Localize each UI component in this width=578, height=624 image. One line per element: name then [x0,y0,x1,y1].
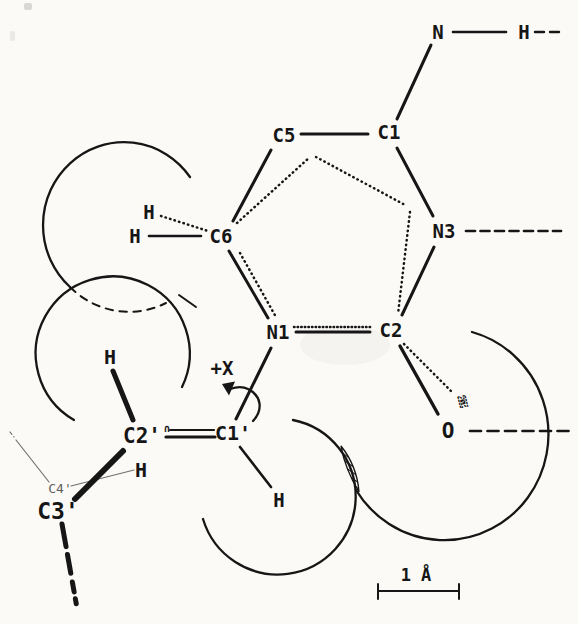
paper-background [0,0,578,624]
atom-label-h-amino: H [518,21,529,43]
scale-bar-label: 1 Å [401,563,432,585]
atom-label-c1prime: C1' [215,421,251,445]
atom-label-c5: C5 [273,124,296,146]
atom-label-c6: C6 [210,225,233,247]
atom-label-h6-lower: H [129,225,140,247]
figure-canvas: N N H C5 C1 H H C6 N3 N1 C2 O H [0,0,578,624]
atom-label-c4prime: C4' [48,481,71,496]
atom-label-o2: O [442,419,455,443]
atom-label-c1: C1 [378,121,401,143]
atom-label-h6-upper: H [143,201,154,223]
atom-label-h1prime: H [273,489,284,511]
atom-label-o1prime-occluded: ∩ [164,422,171,435]
atom-label-c2: C2 [380,319,403,341]
molecular-structure-diagram: N N H C5 C1 H H C6 N3 N1 C2 O H [0,0,578,624]
atom-label-h2prime-lower: H [135,458,147,482]
atom-label-n3: N3 [433,220,456,242]
atom-label-c2prime: C2' [123,424,161,448]
atom-label-h2prime-upper: H [104,345,116,369]
atom-label-n-amino: N [432,21,443,43]
rotation-axis-label: +X [211,357,234,379]
atom-label-n1: N1 [267,321,290,343]
atom-label-c3prime: C3' [37,498,79,524]
